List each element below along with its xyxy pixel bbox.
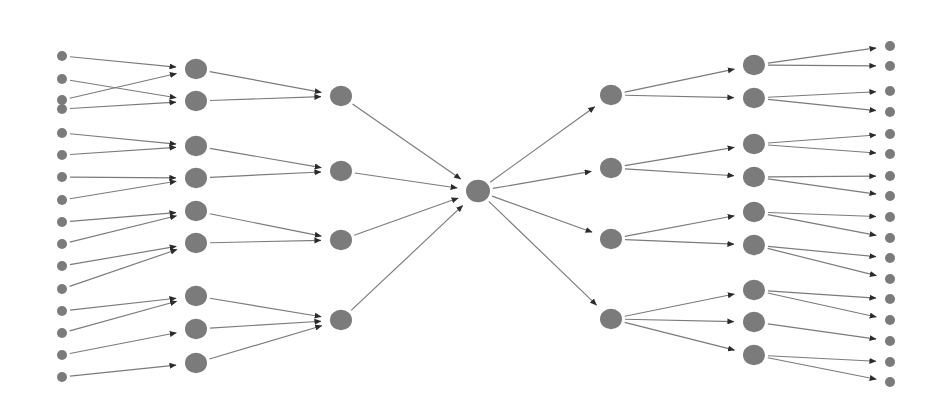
graph-node[interactable]	[885, 336, 895, 346]
graph-node[interactable]	[57, 239, 67, 249]
graph-node[interactable]	[885, 129, 895, 139]
edge-arrow	[768, 213, 876, 217]
edge-arrow	[70, 181, 176, 198]
graph-node[interactable]	[600, 229, 622, 249]
graph-node[interactable]	[57, 328, 67, 338]
edge-arrow	[490, 107, 595, 183]
graph-node[interactable]	[743, 235, 765, 255]
graph-node[interactable]	[185, 286, 207, 306]
graph-node[interactable]	[185, 319, 207, 339]
edge-arrow	[355, 173, 457, 188]
edge-arrow	[210, 72, 322, 93]
graph-node[interactable]	[185, 233, 207, 253]
graph-node[interactable]	[600, 158, 622, 178]
graph-node[interactable]	[330, 86, 352, 106]
graph-node[interactable]	[466, 180, 490, 202]
graph-node[interactable]	[743, 312, 765, 332]
graph-node[interactable]	[57, 306, 67, 316]
graph-node[interactable]	[185, 201, 207, 221]
edge-arrow	[768, 65, 876, 66]
graph-node[interactable]	[885, 86, 895, 96]
edge-arrow	[70, 74, 177, 99]
edge-arrow	[70, 298, 176, 310]
graph-node[interactable]	[885, 41, 895, 51]
graph-node[interactable]	[185, 353, 207, 373]
graph-node[interactable]	[743, 280, 765, 300]
graph-node[interactable]	[185, 168, 207, 188]
graph-node[interactable]	[885, 191, 895, 201]
edge-arrow	[625, 240, 734, 245]
edge-arrow	[625, 294, 735, 316]
edge-arrow	[210, 148, 321, 167]
edge-arrow	[70, 365, 176, 376]
edge-arrow	[768, 135, 876, 143]
graph-node[interactable]	[885, 107, 895, 117]
network-diagram	[0, 0, 947, 403]
graph-node[interactable]	[57, 104, 67, 114]
graph-node[interactable]	[743, 134, 765, 154]
edge-arrow	[625, 147, 734, 165]
graph-node[interactable]	[57, 95, 67, 105]
edge-arrow	[70, 177, 176, 178]
graph-node[interactable]	[885, 294, 895, 304]
graph-node[interactable]	[885, 233, 895, 243]
edge-arrow	[70, 333, 177, 354]
graph-node[interactable]	[743, 345, 765, 365]
graph-node[interactable]	[330, 161, 352, 181]
edge-arrow	[625, 322, 735, 350]
graph-node[interactable]	[885, 149, 895, 159]
edge-arrow	[625, 319, 734, 321]
graph-node[interactable]	[57, 195, 67, 205]
graph-node[interactable]	[330, 310, 352, 330]
edge-arrow	[70, 80, 176, 97]
graph-node[interactable]	[743, 202, 765, 222]
edge-arrow	[492, 196, 592, 232]
edge-arrow	[210, 298, 321, 316]
edge-arrow	[768, 215, 877, 236]
edge-arrow	[351, 205, 463, 310]
edge-arrow	[70, 134, 176, 144]
graph-node[interactable]	[885, 253, 895, 263]
graph-node[interactable]	[885, 171, 895, 181]
graph-node[interactable]	[885, 377, 895, 387]
diagram-canvas	[0, 0, 947, 403]
graph-node[interactable]	[885, 212, 895, 222]
graph-node[interactable]	[185, 136, 207, 156]
edge-arrow	[353, 104, 461, 179]
edge-arrow	[768, 179, 876, 194]
edge-arrow	[768, 246, 876, 256]
edge-arrow	[70, 57, 176, 67]
edge-arrow	[768, 176, 876, 177]
graph-node[interactable]	[885, 274, 895, 284]
graph-node[interactable]	[743, 167, 765, 187]
graph-node[interactable]	[57, 128, 67, 138]
graph-node[interactable]	[185, 59, 207, 79]
graph-node[interactable]	[57, 372, 67, 382]
edge-arrow	[210, 172, 321, 177]
graph-node[interactable]	[743, 88, 765, 108]
edge-arrow	[354, 198, 458, 235]
edge-arrow	[493, 171, 592, 188]
graph-node[interactable]	[57, 350, 67, 360]
edge-arrow	[70, 147, 176, 154]
graph-node[interactable]	[330, 230, 352, 250]
graph-node[interactable]	[57, 51, 67, 61]
graph-node[interactable]	[57, 74, 67, 84]
graph-node[interactable]	[600, 309, 622, 329]
graph-node[interactable]	[57, 284, 67, 294]
graph-node[interactable]	[885, 61, 895, 71]
edge-arrow	[625, 169, 734, 176]
graph-node[interactable]	[600, 85, 622, 105]
graph-node[interactable]	[743, 55, 765, 75]
graph-node[interactable]	[57, 150, 67, 160]
graph-node[interactable]	[57, 261, 67, 271]
edge-arrow	[210, 240, 321, 242]
graph-node[interactable]	[57, 172, 67, 182]
edge-arrow	[625, 95, 734, 97]
graph-node[interactable]	[885, 357, 895, 367]
graph-node[interactable]	[185, 91, 207, 111]
graph-node[interactable]	[57, 217, 67, 227]
graph-node[interactable]	[885, 315, 895, 325]
edge-arrow	[210, 97, 321, 101]
edge-arrow	[768, 248, 877, 275]
